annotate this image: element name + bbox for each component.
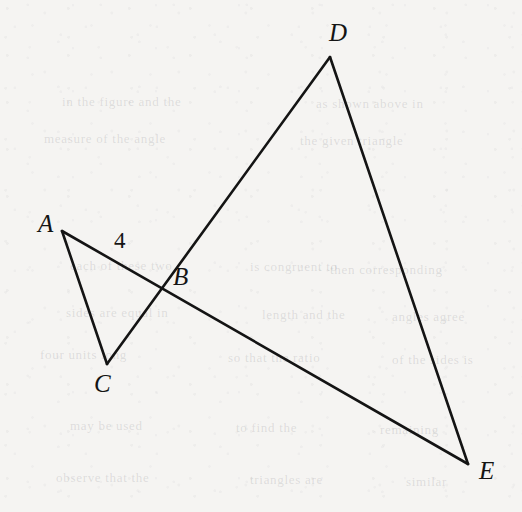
vertex-label-B: B — [173, 264, 188, 289]
vertex-label-A: A — [38, 211, 53, 236]
geometry-figure-canvas: in the figure and theas shown above inme… — [0, 0, 522, 512]
segment-D-E — [330, 57, 468, 464]
segment-C-D — [107, 57, 330, 364]
vertex-label-E: E — [479, 458, 494, 483]
vertex-label-D: D — [329, 20, 347, 45]
segment-A-C — [62, 231, 107, 364]
segment-A-E — [62, 231, 468, 464]
geometry-line-drawing — [0, 0, 522, 512]
side-length-label-AB: 4 — [114, 229, 126, 252]
vertex-label-C: C — [94, 371, 111, 396]
